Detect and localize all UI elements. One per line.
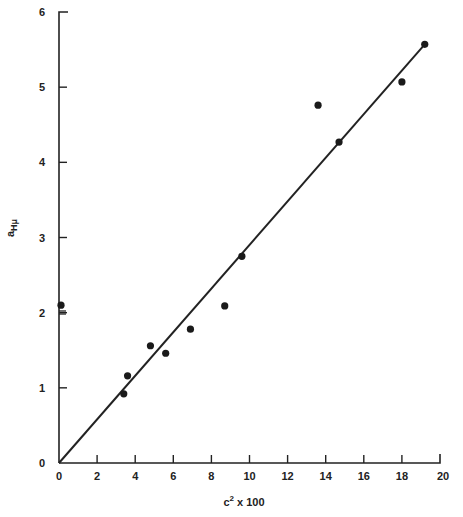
data-point: [221, 302, 228, 309]
x-axis-title: c2 x 100: [223, 494, 264, 508]
data-point: [120, 390, 127, 397]
y-tick-label: 1: [39, 382, 45, 394]
x-tick-label: 14: [320, 470, 333, 482]
x-tick-label: 12: [281, 470, 293, 482]
x-tick-label: 6: [170, 470, 176, 482]
y-axis-ticks: 0123456: [39, 6, 67, 469]
data-point: [124, 372, 131, 379]
data-point: [187, 326, 194, 333]
x-tick-label: 20: [437, 470, 449, 482]
x-tick-label: 2: [94, 470, 100, 482]
x-tick-label: 8: [208, 470, 214, 482]
data-point: [398, 78, 405, 85]
data-point: [147, 342, 154, 349]
y-tick-label: 6: [39, 6, 45, 18]
y-tick-label: 4: [39, 156, 46, 168]
axes: [59, 12, 440, 463]
data-points: [57, 41, 428, 398]
scatter-chart: 0123456 02468101214161820 c2 x 100 aHμ: [0, 0, 463, 517]
x-tick-label: 16: [358, 470, 370, 482]
x-tick-label: 18: [396, 470, 408, 482]
data-point: [162, 350, 169, 357]
x-axis-ticks: 02468101214161820: [56, 455, 449, 482]
x-tick-label: 10: [243, 470, 255, 482]
data-point: [314, 102, 321, 109]
data-point: [238, 253, 245, 260]
y-tick-label: 2: [39, 307, 45, 319]
data-point: [57, 302, 64, 309]
y-tick-label: 3: [39, 232, 45, 244]
y-tick-label: 0: [39, 457, 45, 469]
data-point: [421, 41, 428, 48]
data-point: [335, 138, 342, 145]
y-axis-title: aHμ: [4, 219, 19, 237]
x-tick-label: 0: [56, 470, 62, 482]
y-tick-label: 5: [39, 81, 45, 93]
x-tick-label: 4: [132, 470, 139, 482]
